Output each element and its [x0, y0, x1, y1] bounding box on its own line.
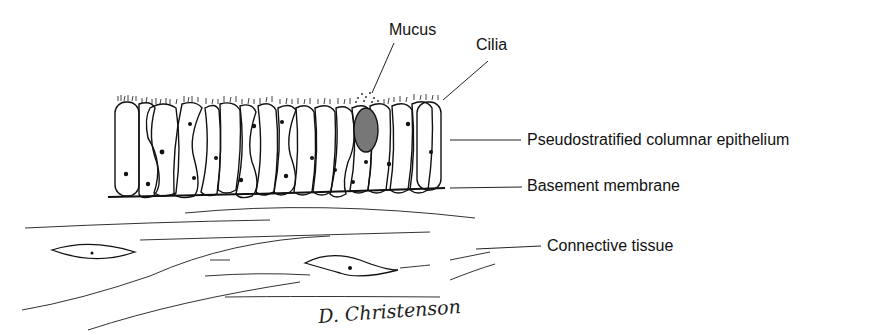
leader-lines	[372, 43, 541, 249]
epithelium-illustration	[0, 0, 886, 333]
label-mucus: Mucus	[389, 22, 436, 38]
goblet-cell-mucus	[354, 108, 378, 152]
mucus-secretion	[355, 92, 379, 103]
label-epithelium: Pseudostratified columnar epithelium	[527, 132, 789, 148]
cilia-fringe	[118, 94, 438, 104]
label-cilia: Cilia	[476, 37, 507, 53]
label-basement-membrane: Basement membrane	[527, 178, 680, 194]
label-connective-tissue: Connective tissue	[547, 238, 673, 254]
diagram-canvas: Mucus Cilia Pseudostratified columnar ep…	[0, 0, 886, 333]
columnar-cells	[115, 102, 441, 198]
